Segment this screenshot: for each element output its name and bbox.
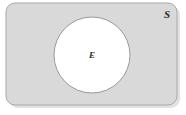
event-label: E [88, 50, 95, 60]
venn-diagram-canvas: S E [0, 0, 186, 115]
venn-diagram-svg: S E [0, 0, 186, 115]
sample-space-label: S [164, 8, 170, 20]
